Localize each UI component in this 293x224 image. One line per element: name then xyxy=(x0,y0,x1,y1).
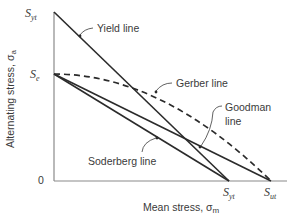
gerber-leader xyxy=(156,83,172,91)
x-tick-syt: Syt xyxy=(223,185,236,201)
x-axis-title: Mean stress, σm xyxy=(143,201,220,215)
y-tick-syt: Syt xyxy=(25,6,38,22)
goodman-line-label-2: line xyxy=(225,115,242,127)
origin-label: 0 xyxy=(38,174,44,186)
goodman-leader-dot xyxy=(199,146,202,149)
goodman-line-label-1: Goodman xyxy=(225,101,271,113)
fatigue-diagram: Syt Se 0 Syt Sut Mean stress, σm Alterna… xyxy=(0,0,293,224)
y-tick-se: Se xyxy=(30,67,40,83)
gerber-leader-dot xyxy=(155,91,158,94)
soderberg-leader-dot xyxy=(156,137,159,140)
yield-leader-dot xyxy=(79,35,82,38)
gerber-line-label: Gerber line xyxy=(176,77,228,89)
soderberg-line-label: Soderberg line xyxy=(88,155,156,167)
yield-line-label: Yield line xyxy=(97,22,139,34)
soderberg-leader xyxy=(142,138,156,152)
goodman-line xyxy=(54,74,271,181)
yield-leader xyxy=(80,28,93,35)
x-tick-sut: Sut xyxy=(264,185,277,201)
y-axis-title: Alternating stress, σa xyxy=(4,50,18,148)
